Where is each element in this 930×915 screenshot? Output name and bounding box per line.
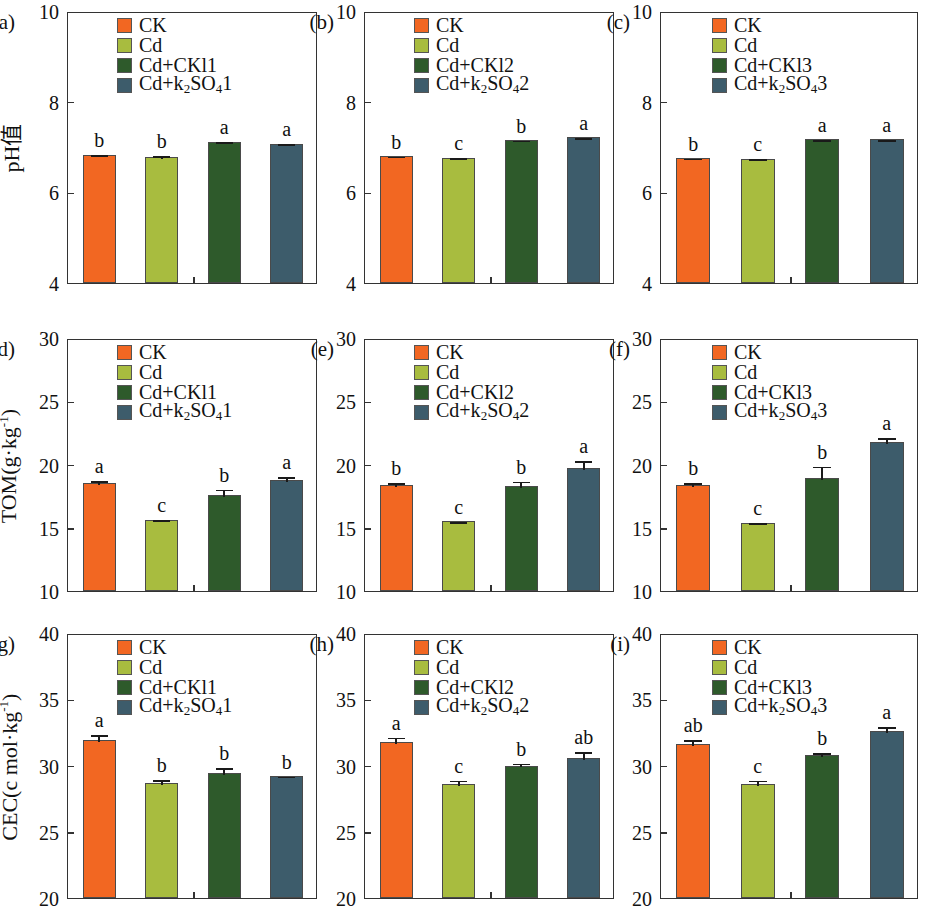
bar-CK: [676, 744, 710, 898]
y-axis-tick-label: 20: [596, 888, 652, 911]
legend-swatch: [117, 405, 132, 420]
y-axis-tick-label: 25: [300, 821, 356, 844]
error-bar-cap: [813, 140, 831, 142]
y-axis-tick: [364, 465, 371, 467]
legend-item: Cd+k2SO41: [117, 76, 232, 95]
error-bar-cap: [278, 477, 295, 479]
significance-letter: c: [454, 496, 463, 519]
significance-letter: b: [391, 457, 401, 480]
significance-letter: c: [454, 132, 463, 155]
legend-label: Cd: [734, 658, 757, 677]
chart-panel-b: bcba46810(b)CKCdCd+CKl2Cd+k2SO42: [364, 12, 614, 284]
legend-swatch: [414, 700, 429, 715]
bar-Cd+k2SO41: [270, 480, 303, 591]
legend-swatch: [712, 78, 727, 93]
legend-item: CK: [117, 16, 232, 35]
y-axis-tick-label: 15: [596, 517, 652, 540]
y-axis-tick-label: 4: [596, 273, 652, 296]
legend-swatch: [117, 345, 132, 360]
legend-label: Cd: [139, 658, 162, 677]
error-bar-cap: [878, 140, 896, 142]
legend-swatch: [414, 78, 429, 93]
y-axis-tick: [67, 832, 74, 834]
x-axis-tick: [790, 892, 792, 898]
y-axis-tick: [660, 102, 667, 104]
panel-label: (h): [310, 632, 335, 657]
legend-label: CK: [139, 638, 167, 657]
legend-swatch: [414, 660, 429, 675]
x-axis-tick: [790, 585, 792, 591]
significance-letter: b: [516, 115, 526, 138]
error-bar-cap: [575, 138, 592, 140]
y-axis-tick: [660, 832, 667, 834]
significance-letter: a: [579, 435, 588, 458]
error-bar-cap: [513, 482, 530, 484]
error-bar-cap: [216, 768, 233, 770]
legend-swatch: [117, 18, 132, 33]
chart-legend: CKCdCd+CKl2Cd+k2SO42: [414, 343, 529, 422]
significance-letter: b: [817, 727, 827, 750]
y-axis-tick-label: 35: [596, 689, 652, 712]
chart-legend: CKCdCd+CKl2Cd+k2SO42: [414, 16, 529, 95]
y-axis-tick-label: 4: [300, 273, 356, 296]
bar-CK: [380, 742, 413, 898]
chart-legend: CKCdCd+CKl1Cd+k2SO41: [117, 343, 232, 422]
error-bar-cap: [813, 753, 831, 755]
significance-letter: b: [282, 751, 292, 774]
error-bar-cap: [749, 159, 767, 161]
significance-letter: a: [882, 701, 891, 724]
legend-label: CK: [734, 343, 762, 362]
legend-item: CK: [712, 638, 827, 657]
y-axis-tick: [364, 402, 371, 404]
error-bar-cap: [878, 727, 896, 729]
chart-panel-e: bcba1015202530(e)CKCdCd+CKl2Cd+k2SO42: [364, 339, 614, 592]
bar-Cd+k2SO43: [870, 731, 904, 898]
legend-swatch: [117, 385, 132, 400]
y-axis-tick-label: 15: [300, 517, 356, 540]
legend-item: Cd: [117, 363, 232, 382]
x-axis-tick: [490, 585, 492, 591]
bar-CK: [83, 740, 116, 898]
error-bar-cap: [749, 523, 767, 525]
error-bar-cap: [278, 777, 295, 779]
legend-label: Cd+k2SO43: [734, 696, 827, 720]
legend-item: Cd: [117, 36, 232, 55]
legend-swatch: [414, 680, 429, 695]
legend-item: Cd: [712, 363, 827, 382]
chart-legend: CKCdCd+CKl3Cd+k2SO43: [712, 638, 827, 717]
y-axis-tick-label: 25: [596, 391, 652, 414]
error-bar-cap: [388, 157, 405, 159]
chart-panel-h: acbab2025303540(h)CKCdCd+CKl2Cd+k2SO42: [364, 634, 614, 899]
significance-letter: a: [818, 114, 827, 137]
legend-item: Cd+k2SO43: [712, 76, 827, 95]
bar-Cd: [741, 523, 775, 591]
bar-Cd+k2SO41: [270, 776, 303, 898]
legend-swatch: [117, 58, 132, 73]
significance-letter: a: [579, 112, 588, 135]
significance-letter: c: [753, 497, 762, 520]
error-bar-cap: [575, 752, 592, 754]
y-axis-tick: [660, 766, 667, 768]
chart-legend: CKCdCd+CKl3Cd+k2SO43: [712, 16, 827, 95]
bar-CK: [380, 485, 413, 591]
legend-swatch: [117, 365, 132, 380]
y-axis-tick-label: 20: [596, 454, 652, 477]
error-bar-cap: [575, 461, 592, 463]
legend-item: Cd+k2SO42: [414, 76, 529, 95]
bar-CK: [380, 156, 413, 283]
legend-swatch: [414, 365, 429, 380]
chart-panel-c: bcaa46810(c)CKCdCd+CKl3Cd+k2SO43: [660, 12, 918, 284]
y-axis-tick-label: 35: [300, 689, 356, 712]
error-bar-cap: [684, 159, 702, 161]
y-axis-tick-label: 8: [300, 91, 356, 114]
legend-swatch: [414, 58, 429, 73]
y-axis-tick-label: 10: [300, 581, 356, 604]
x-axis-tick: [193, 277, 195, 283]
legend-swatch: [117, 660, 132, 675]
error-bar-cap: [91, 155, 108, 157]
significance-letter: b: [157, 754, 167, 777]
error-bar-cap: [513, 764, 530, 766]
bar-CK: [83, 155, 116, 283]
legend-item: Cd+k2SO41: [117, 698, 232, 717]
y-axis-title: pH值: [0, 124, 25, 173]
